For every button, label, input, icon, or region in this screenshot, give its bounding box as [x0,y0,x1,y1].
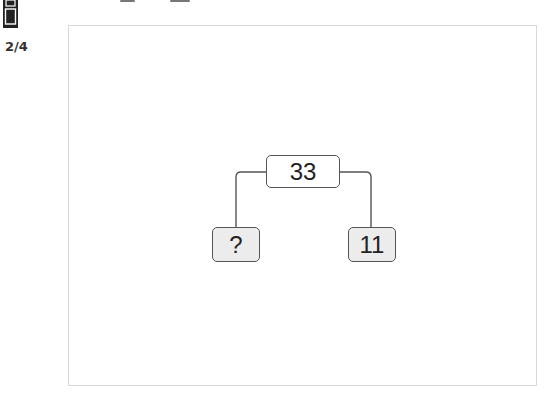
left-child-node[interactable]: ? [212,227,260,262]
root-node: 33 [266,155,340,188]
page-counter: 2/4 [5,39,28,54]
right-child-node: 11 [348,227,396,262]
page-layout-icon [3,0,18,28]
diagram-frame [68,25,537,386]
top-fragment-right [170,0,190,2]
top-fragment-left [120,0,135,2]
